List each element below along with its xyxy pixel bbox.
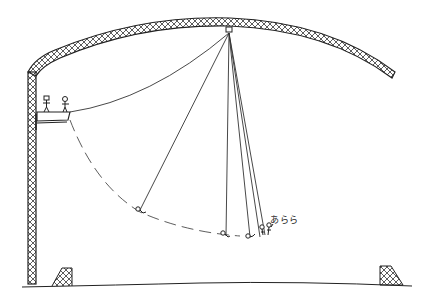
comic-panel: あらら xyxy=(0,0,429,304)
ceiling-pulley xyxy=(226,27,232,32)
ground-line xyxy=(22,282,412,287)
launch-platform xyxy=(36,112,70,130)
swinging-figure-3 xyxy=(246,234,255,238)
platform-person-left xyxy=(43,96,50,112)
goal-right xyxy=(380,266,403,285)
exclamation-text: あらら xyxy=(270,213,299,226)
comic-drawing xyxy=(0,0,429,304)
platform-person-right xyxy=(62,97,69,113)
swing-path xyxy=(70,120,240,236)
goal-left xyxy=(52,268,72,286)
truss-arch xyxy=(28,18,395,78)
ropes xyxy=(70,33,265,237)
left-tower xyxy=(28,72,36,284)
swinging-figure-4 xyxy=(260,225,264,235)
swinging-figure-2 xyxy=(221,231,230,237)
